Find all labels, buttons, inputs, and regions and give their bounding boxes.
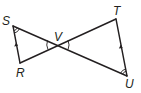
diagram-canvas: S R V T U xyxy=(0,0,141,93)
label-r: R xyxy=(16,66,25,80)
angle-arc-u-inner-icon xyxy=(123,71,127,74)
segment-su xyxy=(13,26,127,76)
parallel-arrow-tu-icon xyxy=(119,45,123,49)
label-v: V xyxy=(54,30,63,44)
angle-arc-s-inner-icon xyxy=(14,28,17,31)
label-u: U xyxy=(125,77,134,91)
label-s: S xyxy=(2,14,10,28)
angle-arc-v-right-icon xyxy=(68,40,69,49)
label-t: T xyxy=(113,4,122,18)
parallel-arrow-sr-icon xyxy=(14,43,18,47)
